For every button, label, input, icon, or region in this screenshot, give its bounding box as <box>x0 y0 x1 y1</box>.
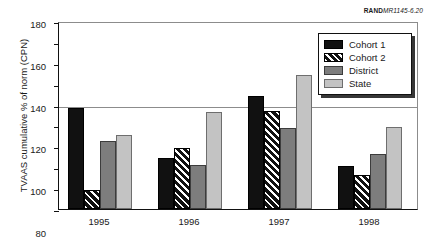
x-tick-label-1997: 1997 <box>268 216 289 227</box>
legend-row-cohort-1: Cohort 1 <box>324 38 406 51</box>
bar-district-1995 <box>100 141 116 209</box>
bar-cohort-1-1997 <box>248 96 264 209</box>
y-tick-label: 160 <box>30 60 46 71</box>
x-tick-label-1996: 1996 <box>178 216 199 227</box>
y-tick-label: 180 <box>30 19 46 30</box>
bar-cohort-2-1996 <box>174 148 190 209</box>
legend-row-district: District <box>324 64 406 77</box>
bar-state-1995 <box>116 135 132 209</box>
bar-district-1996 <box>190 165 206 209</box>
y-axis-title: TVAAS cumulative % of norm (CPN) <box>18 21 29 211</box>
legend-label-text: Cohort 1 <box>349 40 385 50</box>
bar-cohort-2-1997 <box>264 111 280 209</box>
bar-cohort-1-1996 <box>158 158 174 209</box>
bar-state-1997 <box>296 75 312 209</box>
diagonal-hatch-swatch <box>324 53 343 62</box>
bar-cohort-2-1995 <box>84 190 100 209</box>
bar-state-1996 <box>206 112 222 209</box>
y-tick-label: 140 <box>30 102 46 113</box>
y-tick-mark: 0 <box>54 211 59 212</box>
chart-legend: Cohort 1Cohort 2DistrictState <box>318 33 412 95</box>
rand-number-text: MR1145-6.20 <box>383 7 423 14</box>
legend-row-cohort-2: Cohort 2 <box>324 51 406 64</box>
solid-black-swatch <box>324 40 343 49</box>
bar-district-1998 <box>370 154 386 209</box>
y-tick-label: 120 <box>30 144 46 155</box>
x-tick-label-1998: 1998 <box>358 216 379 227</box>
bar-cohort-1-1998 <box>338 166 354 209</box>
legend-row-state: State <box>324 77 406 90</box>
x-tick-label-1995: 1995 <box>88 216 109 227</box>
bar-state-1998 <box>386 127 402 210</box>
legend-label-text: District <box>349 66 378 76</box>
bar-cohort-2-1998 <box>354 175 370 209</box>
rand-brand-text: RAND <box>364 7 383 14</box>
legend-label-text: State <box>349 79 371 89</box>
y-tick-label: 100 <box>30 186 46 197</box>
legend-label-text: Cohort 2 <box>349 53 385 63</box>
y-tick-label: 80 <box>35 227 46 238</box>
bar-cohort-1-1995 <box>68 108 84 209</box>
figure-bar-chart: RANDMR1145-6.20 TVAAS cumulative % of no… <box>0 0 431 243</box>
medium-gray-swatch <box>324 66 343 75</box>
rand-source-label: RANDMR1145-6.20 <box>364 7 423 14</box>
bar-district-1997 <box>280 128 296 209</box>
light-gray-swatch <box>324 79 343 88</box>
